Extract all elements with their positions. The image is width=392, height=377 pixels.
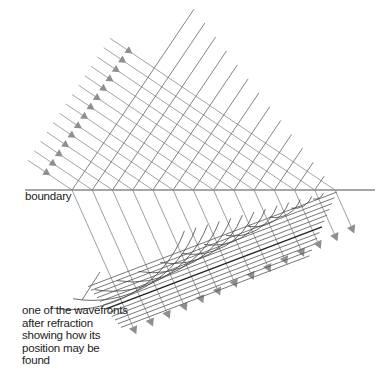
annotation-line-2: after refraction xyxy=(22,317,132,330)
annotation-line-1: one of the wavefronts xyxy=(22,304,132,317)
annotation-line-4: position may be xyxy=(22,342,132,355)
wavefront-annotation: one of the wavefronts after refraction s… xyxy=(22,304,132,367)
annotation-line-3: showing how its xyxy=(22,329,132,342)
boundary-label: boundary xyxy=(25,190,71,203)
annotation-line-5: found xyxy=(22,354,132,367)
annotation-pointer-line xyxy=(82,272,100,300)
incident-rays xyxy=(28,38,335,190)
refraction-diagram: boundary one of the wavefronts after ref… xyxy=(0,0,392,377)
